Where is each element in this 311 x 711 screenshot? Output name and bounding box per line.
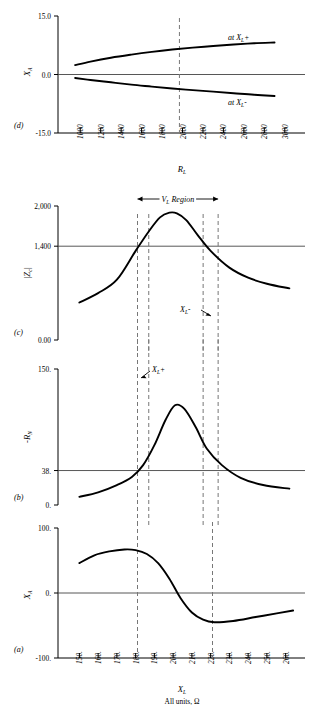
panel-a-ytick-label-2: -100. xyxy=(36,654,52,663)
svg-text:(b): (b) xyxy=(14,493,24,502)
panel-b-ytick-label-2: 0. xyxy=(45,501,51,510)
svg-text:RL: RL xyxy=(177,164,186,175)
panel-d-xtick-label: 1000 xyxy=(76,124,85,139)
svg-text:-RN: -RN xyxy=(22,431,33,443)
panel-a-xtick-label: 150. xyxy=(75,651,84,664)
svg-text:at XL-: at XL- xyxy=(228,98,247,108)
panel-d-xtick-label: 1400 xyxy=(117,124,126,139)
svg-text:XL: XL xyxy=(177,684,186,695)
svg-text:1800: 1800 xyxy=(158,124,167,139)
svg-text:2200: 2200 xyxy=(199,124,208,139)
svg-text:240.: 240. xyxy=(244,651,253,664)
svg-text:180.: 180. xyxy=(132,651,141,664)
panel-d-xtick-label: 1200 xyxy=(97,124,106,139)
panel-d-xtick-label: 2400 xyxy=(219,124,228,139)
panel-a-xtick-label: 210. xyxy=(188,651,197,664)
panel-a-units-label: All units, Ω xyxy=(165,697,200,706)
panel-a-xtick-label: 180. xyxy=(132,651,141,664)
panel-a-xtick-label: 220. xyxy=(207,651,216,664)
svg-text:1600: 1600 xyxy=(138,124,147,139)
panel-b-ytick-label-1: 38. xyxy=(42,467,51,476)
svg-text:XL+: XL+ xyxy=(151,365,165,375)
panel-c-region-label: VL Region xyxy=(161,195,194,205)
panel-d-xtick-label: 3000 xyxy=(281,124,290,140)
panel-a-xtick-label: 170. xyxy=(113,651,122,664)
svg-text:150.: 150. xyxy=(75,651,84,664)
panel-a-xlabel: XL xyxy=(177,684,186,695)
panel-d-xtick-label: 2600 xyxy=(240,124,249,139)
panel-c-ytick-label-1: 1,400 xyxy=(34,242,51,251)
panel-a-ytick-label-0: 100. xyxy=(38,524,51,533)
panel-a-letter: (a) xyxy=(14,645,24,654)
panel-d-xlabel: RL xyxy=(177,164,186,175)
svg-text:210.: 210. xyxy=(188,651,197,664)
panel-c-annotation-xl-minus: XL- xyxy=(179,305,191,315)
panel-a-xtick-label: 240. xyxy=(244,651,253,664)
svg-text:200.: 200. xyxy=(169,651,178,664)
panel-c-curve-zc xyxy=(79,212,289,302)
panel-a-curve-xa xyxy=(79,549,293,622)
svg-text:(c): (c) xyxy=(14,328,23,337)
svg-text:1000: 1000 xyxy=(76,124,85,139)
panel-d-curve-xl-minus xyxy=(75,78,274,96)
panel-b-curve-rn xyxy=(79,405,289,497)
panel-a-xtick-label: 230. xyxy=(225,651,234,664)
svg-text:190.: 190. xyxy=(150,651,159,664)
panel-d-curve-xl-plus xyxy=(75,43,274,66)
panel-a-xtick-label: 190. xyxy=(150,651,159,664)
svg-text:2800: 2800 xyxy=(260,124,269,139)
svg-text:|Zc|: |Zc| xyxy=(22,267,33,279)
svg-text:XL-: XL- xyxy=(179,305,191,315)
panel-d-xtick-label: 1600 xyxy=(138,124,147,139)
panel-b-ytick-label-0: 150. xyxy=(38,365,51,374)
svg-text:3000: 3000 xyxy=(281,124,290,140)
svg-text:1400: 1400 xyxy=(117,124,126,139)
panel-d-curve-label-xl-plus: at XL+ xyxy=(228,33,249,43)
svg-text:260.: 260. xyxy=(282,651,291,664)
panel-a-ylabel: XA xyxy=(22,590,33,600)
panel-c-arrowhead-right xyxy=(213,196,218,201)
panel-d-xtick-label: 1800 xyxy=(158,124,167,139)
svg-text:250.: 250. xyxy=(263,651,272,664)
panel-a-xtick-label: 200. xyxy=(169,651,178,664)
figure-svg: 15.00.0-15.0XA10001200140016001800200022… xyxy=(0,0,311,711)
svg-text:at XL+: at XL+ xyxy=(228,33,249,43)
panel-a-xtick-label: 160. xyxy=(94,651,103,664)
panel-c-ylabel: |Zc| xyxy=(22,267,33,279)
svg-text:(a): (a) xyxy=(14,645,24,654)
panel-a-xtick-label: 260. xyxy=(282,651,291,664)
svg-text:160.: 160. xyxy=(94,651,103,664)
svg-text:XA: XA xyxy=(22,67,33,77)
svg-text:2600: 2600 xyxy=(240,124,249,139)
figure-container: 15.00.0-15.0XA10001200140016001800200022… xyxy=(0,0,311,711)
svg-text:230.: 230. xyxy=(225,651,234,664)
svg-text:1200: 1200 xyxy=(97,124,106,139)
panel-c-ytick-label-2: 0.00 xyxy=(38,336,51,345)
panel-d-ytick-label-0: 15.0 xyxy=(38,12,51,21)
panel-d-xtick-label: 2200 xyxy=(199,124,208,139)
panel-d-ylabel: XA xyxy=(22,67,33,77)
svg-text:(d): (d) xyxy=(14,121,24,130)
panel-b-ylabel: -RN xyxy=(22,431,33,443)
panel-d-ytick-label-2: -15.0 xyxy=(36,129,52,138)
panel-d-ytick-label-1: 0.0 xyxy=(42,71,52,80)
panel-b-letter: (b) xyxy=(14,493,24,502)
svg-text:170.: 170. xyxy=(113,651,122,664)
svg-text:220.: 220. xyxy=(207,651,216,664)
panel-c-ytick-label-0: 2,000 xyxy=(34,202,51,211)
panel-b-annotation-xl-plus: XL+ xyxy=(151,365,165,375)
panel-c-letter: (c) xyxy=(14,328,23,337)
panel-d-letter: (d) xyxy=(14,121,24,130)
panel-d-curve-label-xl-minus: at XL- xyxy=(228,98,247,108)
panel-d-xtick-label: 2800 xyxy=(260,124,269,139)
panel-c-arrowhead-left xyxy=(138,196,143,201)
panel-a-ytick-label-1: 0. xyxy=(45,589,51,598)
svg-text:2400: 2400 xyxy=(219,124,228,139)
svg-text:XA: XA xyxy=(22,590,33,600)
panel-a-xtick-label: 250. xyxy=(263,651,272,664)
